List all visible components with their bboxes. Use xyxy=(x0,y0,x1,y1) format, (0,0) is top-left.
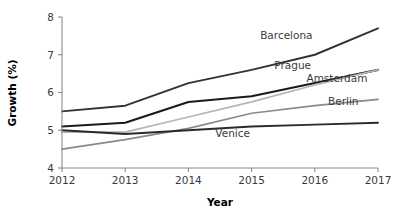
y-axis-title: Growth (%) xyxy=(6,60,18,127)
x-tick-label: 2012 xyxy=(49,174,76,186)
line-chart-figure: 45678201220132014201520162017 BarcelonaP… xyxy=(0,0,406,214)
series-label-barcelona: Barcelona xyxy=(260,29,312,41)
x-tick-label: 2015 xyxy=(238,174,265,186)
chart-canvas: 45678201220132014201520162017 BarcelonaP… xyxy=(0,0,406,214)
x-axis-title: Year xyxy=(206,196,234,208)
series-label-layer: BarcelonaPragueAmsterdamBerlinVenice xyxy=(215,29,367,139)
x-tick-label: 2014 xyxy=(175,174,202,186)
y-tick-label: 4 xyxy=(47,162,54,174)
y-tick-label: 6 xyxy=(47,86,54,98)
series-label-prague: Prague xyxy=(274,59,311,71)
y-tick-label: 5 xyxy=(47,124,54,136)
series-label-venice: Venice xyxy=(215,127,250,139)
series-label-berlin: Berlin xyxy=(328,95,358,107)
y-tick-label: 8 xyxy=(47,11,54,23)
y-tick-label: 7 xyxy=(47,49,54,61)
x-tick-label: 2016 xyxy=(301,174,328,186)
axis-layer xyxy=(62,17,378,168)
series-label-amsterdam: Amsterdam xyxy=(306,72,367,84)
x-tick-label: 2013 xyxy=(112,174,139,186)
x-tick-label: 2017 xyxy=(365,174,392,186)
axis-lines xyxy=(62,17,378,168)
